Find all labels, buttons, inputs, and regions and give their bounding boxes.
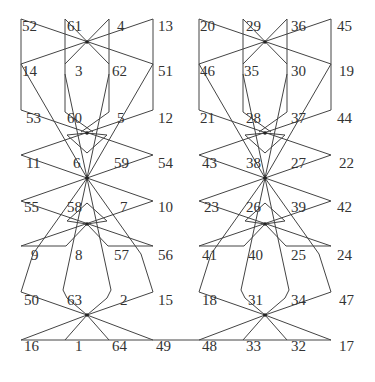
cell-number-label: 64 — [112, 339, 127, 354]
cell-number-label: 34 — [291, 293, 306, 308]
hub-point — [263, 40, 267, 44]
cell-number-label: 15 — [158, 293, 173, 308]
cell-number-label: 4 — [117, 19, 125, 34]
magic-square-path-diagram: 5261413143625153605121165954555871098575… — [0, 0, 375, 382]
cell-number-label: 53 — [26, 111, 41, 126]
cell-number-label: 60 — [67, 111, 82, 126]
hub-point — [263, 176, 267, 180]
cell-number-label: 26 — [246, 200, 261, 215]
path-segment — [265, 298, 285, 315]
path-segment — [265, 135, 285, 153]
cell-number-label: 50 — [24, 293, 39, 308]
cell-number-label: 57 — [114, 248, 129, 263]
cell-number-label: 51 — [158, 64, 173, 79]
cell-number-label: 1 — [75, 339, 83, 354]
cell-number-label: 56 — [158, 248, 173, 263]
cell-number-label: 2 — [120, 293, 128, 308]
cell-number-label: 16 — [24, 339, 39, 354]
cell-number-label: 22 — [339, 156, 354, 171]
cell-number-label: 9 — [31, 248, 39, 263]
cell-number-label: 28 — [246, 111, 261, 126]
cell-number-label: 12 — [158, 111, 173, 126]
cell-number-label: 47 — [339, 293, 354, 308]
cell-number-label: 20 — [200, 19, 215, 34]
path-lines — [0, 0, 375, 382]
cell-number-label: 11 — [26, 156, 40, 171]
cell-number-label: 61 — [67, 19, 82, 34]
cell-number-label: 48 — [202, 339, 217, 354]
path-segment — [21, 315, 87, 340]
cell-number-label: 31 — [248, 293, 263, 308]
cell-number-label: 55 — [24, 200, 39, 215]
hub-point — [263, 131, 267, 135]
cell-number-label: 54 — [158, 156, 173, 171]
path-segment — [259, 112, 287, 132]
cell-number-label: 43 — [202, 156, 217, 171]
path-segment — [141, 254, 153, 292]
cell-number-label: 19 — [339, 64, 354, 79]
cell-number-label: 13 — [158, 19, 173, 34]
cell-number-label: 30 — [291, 64, 306, 79]
cell-number-label: 44 — [337, 111, 352, 126]
cell-number-label: 8 — [75, 248, 83, 263]
cell-number-label: 49 — [156, 339, 171, 354]
cell-number-label: 17 — [339, 339, 354, 354]
cell-number-label: 32 — [291, 339, 306, 354]
cell-number-label: 36 — [291, 19, 306, 34]
hub-point — [85, 40, 89, 44]
path-segment — [81, 112, 109, 132]
cell-number-label: 14 — [22, 64, 37, 79]
path-segment — [265, 203, 285, 221]
cell-number-label: 10 — [158, 200, 173, 215]
cell-number-label: 25 — [291, 248, 306, 263]
cell-number-label: 40 — [248, 248, 263, 263]
cell-number-label: 52 — [22, 19, 37, 34]
hub-point — [85, 176, 89, 180]
cell-number-label: 58 — [67, 200, 82, 215]
cell-number-label: 27 — [291, 156, 306, 171]
path-segment — [87, 315, 153, 340]
hub-point — [85, 313, 89, 317]
cell-number-label: 45 — [337, 19, 352, 34]
path-segment — [87, 298, 107, 315]
cell-number-label: 37 — [291, 111, 306, 126]
cell-number-label: 29 — [246, 19, 261, 34]
cell-number-label: 59 — [114, 156, 129, 171]
path-segment — [245, 135, 265, 153]
hub-point — [263, 313, 267, 317]
cell-number-label: 7 — [120, 200, 128, 215]
cell-number-label: 6 — [73, 156, 81, 171]
cell-number-label: 38 — [246, 156, 261, 171]
path-segment — [241, 290, 245, 298]
cell-number-label: 24 — [337, 248, 352, 263]
path-segment — [67, 135, 87, 153]
cell-number-label: 41 — [202, 248, 217, 263]
cell-number-label: 23 — [204, 200, 219, 215]
hub-point — [85, 131, 89, 135]
cell-number-label: 35 — [244, 64, 259, 79]
cell-number-label: 21 — [200, 111, 215, 126]
cell-number-label: 46 — [200, 64, 215, 79]
cell-number-label: 42 — [337, 200, 352, 215]
path-segment — [265, 315, 331, 340]
cell-number-label: 39 — [291, 200, 306, 215]
path-segment — [87, 203, 107, 221]
cell-number-label: 62 — [112, 64, 127, 79]
hub-point — [263, 222, 267, 226]
cell-number-label: 18 — [202, 293, 217, 308]
path-segment — [87, 135, 107, 153]
path-segment — [107, 290, 111, 298]
cell-number-label: 5 — [117, 111, 125, 126]
cell-number-label: 3 — [75, 64, 83, 79]
hub-point — [85, 222, 89, 226]
cell-number-label: 33 — [246, 339, 261, 354]
path-segment — [319, 254, 331, 292]
cell-number-label: 63 — [67, 293, 82, 308]
path-segment — [199, 315, 265, 340]
path-segment — [285, 290, 289, 298]
